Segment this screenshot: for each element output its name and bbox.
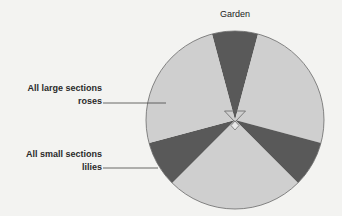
garden-sections bbox=[146, 31, 324, 209]
garden-diagram bbox=[0, 0, 342, 216]
